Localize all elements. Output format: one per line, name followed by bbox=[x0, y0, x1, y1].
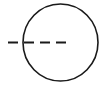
diagram-canvas bbox=[0, 0, 105, 85]
circle-radius-diagram bbox=[0, 0, 105, 85]
